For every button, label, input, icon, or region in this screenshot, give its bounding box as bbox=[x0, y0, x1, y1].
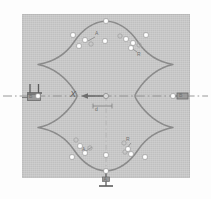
measurement-point bbox=[103, 39, 108, 44]
measurement-point bbox=[77, 44, 82, 49]
diagram-root: X d A R A R B B A bbox=[0, 0, 211, 199]
callout-leaders bbox=[86, 37, 137, 151]
lower-right-annotation-label: R bbox=[126, 137, 130, 142]
center-arrow bbox=[81, 93, 104, 99]
measurement-point bbox=[171, 94, 176, 99]
measurement-point bbox=[129, 152, 134, 157]
measurement-point bbox=[104, 19, 109, 24]
upper-right-annotation-label: R bbox=[137, 52, 141, 57]
measurement-point bbox=[143, 155, 148, 160]
center-reference-point bbox=[103, 93, 108, 98]
center-dimension-label: d bbox=[95, 107, 98, 112]
axis-x-label: X bbox=[70, 90, 76, 99]
top-annotation-label: A bbox=[95, 31, 99, 36]
measurement-point bbox=[144, 33, 149, 38]
right-datum-label: B bbox=[179, 93, 183, 98]
lower-left-annotation-label: A bbox=[82, 147, 86, 152]
measurement-point bbox=[71, 33, 76, 38]
measurement-point bbox=[129, 46, 134, 51]
left-control-frame-label: B bbox=[29, 94, 33, 99]
measurement-point bbox=[70, 155, 75, 160]
measurement-point bbox=[104, 169, 109, 174]
measurement-point bbox=[131, 41, 136, 46]
measurement-point bbox=[104, 153, 109, 158]
measurement-point bbox=[124, 37, 129, 42]
measurement-point bbox=[36, 94, 41, 99]
measurement-point bbox=[126, 147, 131, 152]
measurement-point bbox=[83, 38, 88, 43]
diagram-canvas bbox=[0, 0, 211, 199]
bottom-datum-label: A bbox=[104, 177, 108, 182]
